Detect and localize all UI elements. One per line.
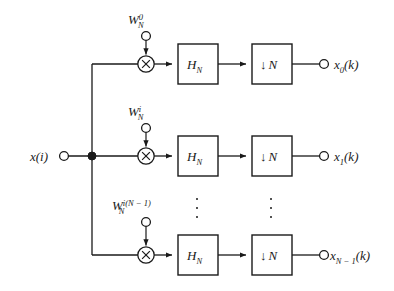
branch-i-output-label: x1(k) [333, 149, 358, 167]
branch-i-weight-terminal [142, 124, 151, 133]
diagram-canvas: x(i) W0N WiN Wi(N − 1)N HN HN HN ↓N ↓N [0, 0, 394, 291]
branch-0-output-terminal [320, 60, 329, 69]
ellipsis-dot [196, 216, 198, 218]
ellipsis-filter-column [196, 198, 198, 218]
input-terminal-node [60, 152, 69, 161]
block-diagram-figure: x(i) W0N WiN Wi(N − 1)N HN HN HN ↓N ↓N [0, 0, 394, 291]
input-label: x(i) [29, 149, 48, 164]
branch-i-output-terminal [320, 152, 329, 161]
branch-0-weight-terminal [142, 32, 151, 41]
ellipsis-dot [270, 216, 272, 218]
ellipsis-dot [270, 198, 272, 200]
branch-last-output-label: xN − 1(k) [329, 248, 370, 266]
branch-last-decimator-label: ↓N [260, 248, 279, 263]
ellipsis-dot [196, 207, 198, 209]
branch-0-output-label: x0(k) [333, 57, 358, 75]
branch-i-decimator-label: ↓N [260, 149, 279, 164]
branch-last-output-terminal [320, 251, 329, 260]
branch-0-decimator-label: ↓N [260, 57, 279, 72]
branch-i-weight-label: WiN [128, 104, 145, 123]
branch-last-weight-terminal [142, 218, 151, 227]
ellipsis-decimator-column [270, 198, 272, 218]
branch-0-weight-label: W0N [128, 12, 145, 31]
ellipsis-dot [270, 207, 272, 209]
branch-last-weight-label: Wi(N − 1)N [112, 198, 151, 217]
ellipsis-dot [196, 198, 198, 200]
